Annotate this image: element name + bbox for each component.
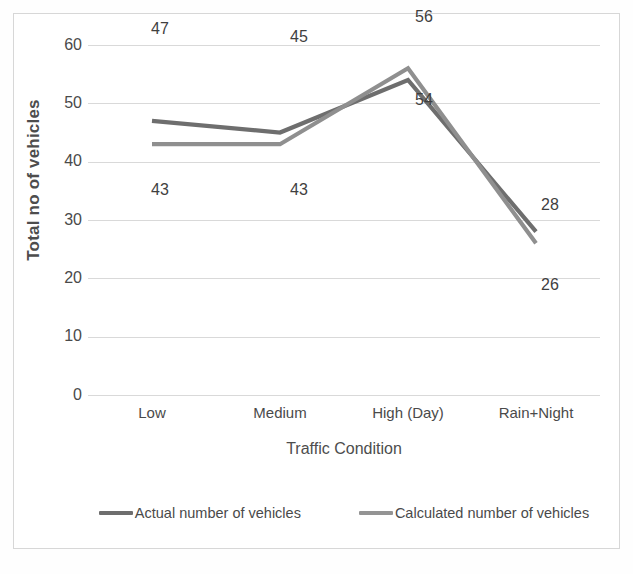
point-label-low-actual: 47 (151, 20, 169, 38)
y-tick-0: 0 (48, 387, 82, 403)
y-tick-40: 40 (48, 153, 82, 169)
x-tick-low: Low (138, 404, 166, 421)
line-chart: Total no of vehicles 60 50 40 30 20 10 0… (0, 0, 633, 574)
y-tick-30: 30 (48, 212, 82, 228)
point-label-rain-calculated: 26 (541, 276, 559, 294)
chart-legend: Actual number of vehicles Calculated num… (88, 498, 600, 528)
y-tick-10: 10 (48, 328, 82, 344)
point-label-low-calculated: 43 (151, 181, 169, 199)
y-tick-50: 50 (48, 95, 82, 111)
legend-entry-calculated: Calculated number of vehicles (359, 505, 589, 521)
x-tick-high-day: High (Day) (372, 404, 444, 421)
legend-label-actual: Actual number of vehicles (135, 505, 301, 521)
x-axis-title: Traffic Condition (88, 440, 600, 458)
y-axis-ticks: 60 50 40 30 20 10 0 (40, 45, 82, 395)
point-label-high-calculated: 56 (415, 8, 433, 26)
series-line-calculated (152, 68, 536, 243)
legend-label-calculated: Calculated number of vehicles (395, 505, 589, 521)
x-tick-medium: Medium (253, 404, 306, 421)
gridline-0 (88, 395, 600, 396)
legend-swatch-calculated (359, 511, 393, 515)
y-tick-60: 60 (48, 37, 82, 53)
point-label-high-actual: 54 (415, 91, 433, 109)
legend-entry-actual: Actual number of vehicles (99, 505, 301, 521)
point-label-rain-actual: 28 (541, 196, 559, 214)
x-axis-ticks: Low Medium High (Day) Rain+Night (88, 404, 600, 428)
x-tick-rain-night: Rain+Night (499, 404, 574, 421)
series-lines (88, 45, 600, 395)
legend-swatch-actual (99, 511, 133, 515)
y-tick-20: 20 (48, 270, 82, 286)
point-label-medium-calculated: 43 (290, 181, 308, 199)
point-label-medium-actual: 45 (290, 28, 308, 46)
plot-area: 47 43 45 43 56 54 28 26 (88, 45, 600, 395)
series-line-actual (152, 80, 536, 232)
